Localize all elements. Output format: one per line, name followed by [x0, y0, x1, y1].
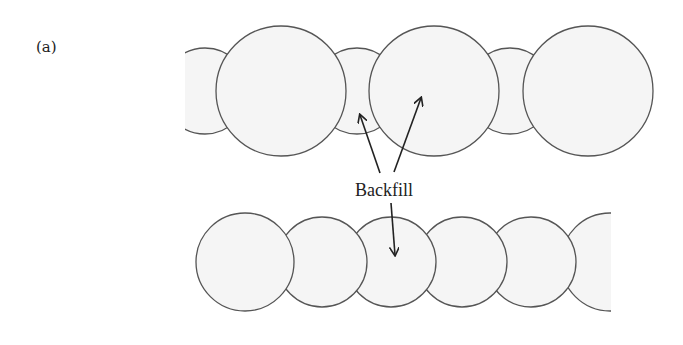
backfill-label: Backfill [355, 180, 413, 200]
bottom-row [196, 213, 659, 311]
diagram-canvas: Backfill [0, 0, 683, 345]
top-large-circle-3 [523, 26, 653, 156]
top-large-circle-2 [369, 26, 499, 156]
top-large-circle-1 [216, 26, 346, 156]
bottom-circle-1 [196, 213, 294, 311]
backfill-figure: (a) [0, 0, 683, 345]
